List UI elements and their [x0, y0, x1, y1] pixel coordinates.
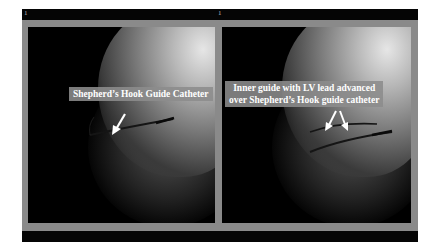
arrow-icon	[112, 114, 125, 135]
arrow-icon	[325, 111, 336, 131]
bottom-bar	[22, 231, 418, 242]
arrow-icon	[340, 111, 348, 131]
catheter-overlay	[28, 27, 215, 223]
fluoroscopy-figure: 1 1 Shepherd’s Hook Guide Catheter	[22, 9, 418, 242]
frame-number-right: 1	[218, 9, 222, 18]
annotation-line-2: over Shepherd’s Hook guide catheter	[229, 94, 379, 106]
top-bar: 1 1	[22, 9, 418, 20]
fluoroscopy-panel-left: Shepherd’s Hook Guide Catheter	[28, 27, 215, 223]
annotation-line-1: Inner guide with LV lead advanced	[229, 82, 379, 94]
annotation-label-right: Inner guide with LV lead advanced over S…	[225, 81, 383, 107]
fluoroscopy-panel-right: Inner guide with LV lead advanced over S…	[222, 27, 411, 223]
frame-number-left: 1	[24, 9, 28, 18]
catheter-overlay	[222, 27, 411, 223]
annotation-label-left: Shepherd’s Hook Guide Catheter	[69, 87, 213, 101]
